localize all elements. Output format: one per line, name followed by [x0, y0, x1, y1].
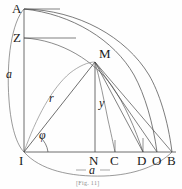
label-point-I: I [19, 154, 23, 167]
label-angle-phi: φ [39, 129, 46, 141]
arc-A-to-B-outer [24, 9, 172, 152]
segment-M-to-B [95, 62, 172, 152]
label-point-B: B [167, 154, 176, 167]
segment-r-I-to-M [24, 62, 95, 152]
label-point-D: D [137, 154, 146, 167]
label-radius-a-left: a [6, 68, 12, 80]
label-point-O: O [152, 154, 161, 167]
label-point-M: M [99, 47, 111, 60]
arc-M-to-C [95, 62, 115, 152]
figure-caption: [Fig. 11] [76, 180, 99, 186]
geometric-figure: A Z M I N C D O B a r y φ a [Fig. 11] [0, 0, 182, 189]
label-point-A: A [12, 2, 21, 15]
label-base-a: a [89, 164, 95, 176]
label-point-C: C [110, 154, 119, 167]
label-point-Z: Z [13, 31, 21, 44]
label-radius-vector-r: r [49, 92, 54, 104]
label-ordinate-y: y [99, 97, 104, 109]
